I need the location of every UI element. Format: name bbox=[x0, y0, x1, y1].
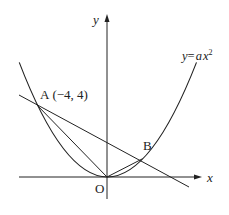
y-axis-label: y bbox=[91, 12, 99, 27]
segment-oa bbox=[36, 104, 107, 177]
segment-ob bbox=[107, 159, 143, 177]
point-a-label: A(−4, 4) bbox=[40, 87, 88, 102]
origin-label: O bbox=[95, 181, 104, 196]
curve-equation-label: y=ax2 bbox=[180, 48, 212, 63]
coordinate-diagram: y x O y=ax2 A(−4, 4) B bbox=[0, 0, 229, 215]
x-axis-arrow-icon bbox=[194, 175, 202, 180]
parabola-curve bbox=[19, 62, 196, 177]
y-axis-arrow-icon bbox=[105, 14, 110, 22]
point-b-label: B bbox=[143, 138, 152, 153]
x-axis-label: x bbox=[206, 170, 213, 185]
